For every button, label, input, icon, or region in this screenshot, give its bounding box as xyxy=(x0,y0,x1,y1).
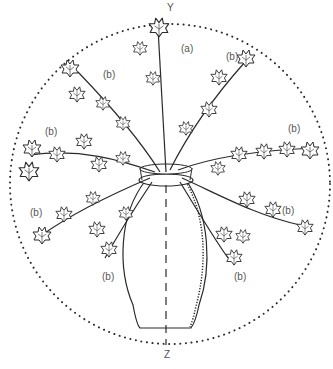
label-b: (b) xyxy=(234,272,246,282)
label-b: (b) xyxy=(103,70,115,80)
label-b: (b) xyxy=(288,124,300,134)
label-a: (a) xyxy=(181,44,193,54)
label-b: (b) xyxy=(30,208,42,218)
label-b: (b) xyxy=(282,206,294,216)
label-b: (b) xyxy=(226,52,238,62)
vase xyxy=(123,164,207,328)
label-b: (b) xyxy=(45,127,57,137)
label-b: (b) xyxy=(102,272,114,282)
axis-label-z: Z xyxy=(164,350,170,360)
axis-label-y: Y xyxy=(167,3,174,13)
ivy-vase-diagram xyxy=(0,0,333,369)
